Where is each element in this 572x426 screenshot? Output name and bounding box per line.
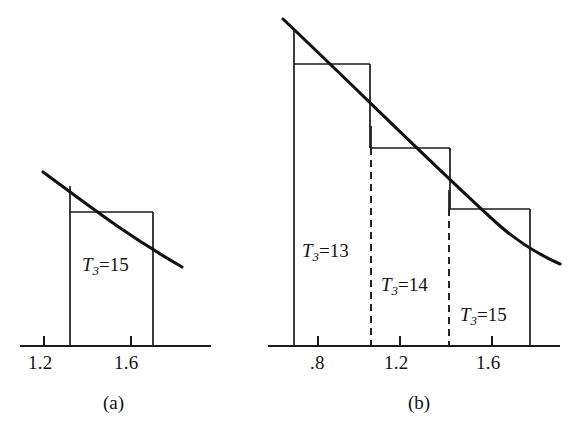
panel-b-group (268, 19, 560, 346)
panel-b-bar-2-label-value: =14 (398, 274, 428, 295)
panel-b-bar-2-label-subscript: 3 (392, 283, 399, 298)
panel-b-bar-2-label-base: T (381, 274, 392, 295)
panel-b-caption: (b) (408, 392, 430, 414)
panel-b-tick-label-1-2: 1.2 (384, 352, 409, 374)
panel-a-bar-1-label-value: =15 (99, 254, 129, 275)
panel-b-bar-2-label: T3=14 (381, 274, 428, 296)
panel-b-bar-1-label-base: T (302, 240, 313, 261)
panel-a-curve (43, 172, 182, 267)
panel-a-tick-label-1-6: 1.6 (114, 352, 139, 374)
figure-container: 1.2 1.6 T3=15 (a) .8 1.2 1.6 T3=13 T3=14… (0, 0, 572, 426)
panel-b-bar-1-label-subscript: 3 (313, 249, 320, 264)
panel-b-bar-3-label-subscript: 3 (471, 313, 478, 328)
panel-b-bar-3-label-base: T (460, 304, 471, 325)
panel-a-bar-1-label-base: T (82, 254, 93, 275)
panel-b-bar-3-label: T3=15 (460, 304, 507, 326)
panel-b-curve (283, 19, 560, 264)
panel-a-caption: (a) (103, 392, 124, 414)
panel-b-bar-1-label-value: =13 (319, 240, 349, 261)
panel-a-bar-1-label-subscript: 3 (93, 263, 100, 278)
panel-a-bar-1-label: T3=15 (82, 254, 129, 276)
panel-b-bar-1-label: T3=13 (302, 240, 349, 262)
panel-a-tick-label-1-2: 1.2 (28, 352, 53, 374)
panel-b-tick-label-1-6: 1.6 (476, 352, 501, 374)
panel-b-bar-3-label-value: =15 (477, 304, 507, 325)
panel-b-tick-label-0-8: .8 (310, 352, 325, 374)
